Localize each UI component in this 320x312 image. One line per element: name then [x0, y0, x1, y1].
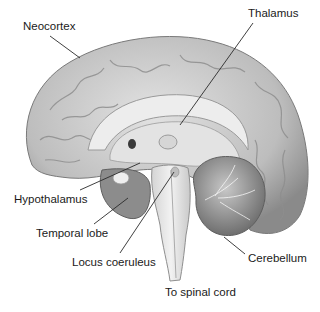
eye-like-structure	[128, 139, 136, 149]
label-cerebellum: Cerebellum	[248, 252, 307, 265]
label-to-spinal-cord: To spinal cord	[165, 286, 236, 299]
brain-diagram: Neocortex Thalamus Hypothalamus Temporal…	[0, 0, 320, 312]
label-hypothalamus: Hypothalamus	[14, 193, 88, 206]
label-locus-coeruleus: Locus coeruleus	[72, 256, 156, 269]
leader-neocortex	[50, 36, 80, 58]
thalamus	[159, 135, 177, 149]
brainstem	[152, 165, 191, 281]
label-temporal-lobe: Temporal lobe	[36, 227, 108, 240]
label-neocortex: Neocortex	[23, 20, 75, 33]
label-thalamus: Thalamus	[248, 7, 299, 20]
leader-cerebellum	[224, 237, 245, 254]
brain-illustration	[0, 0, 320, 312]
cerebellum	[193, 156, 265, 235]
